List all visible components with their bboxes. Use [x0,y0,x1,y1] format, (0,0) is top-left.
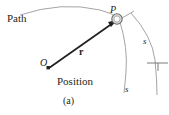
position-label: Position [57,76,93,87]
origin-label: O [40,58,47,68]
arc-length-lower-label: s [125,85,129,94]
path-curve [20,6,118,18]
point-p-label: P [110,5,116,15]
physics-figure: Path O P r s s Position (a) [0,0,169,115]
arc-outer-curve [131,13,157,95]
path-label: Path [7,13,27,24]
arc-length-upper-label: s [143,37,147,46]
figure-caption: (a) [63,96,74,106]
particle-marker-inner [114,16,120,22]
arc-inner-curve [120,22,126,93]
position-vector-label: r [79,47,83,57]
